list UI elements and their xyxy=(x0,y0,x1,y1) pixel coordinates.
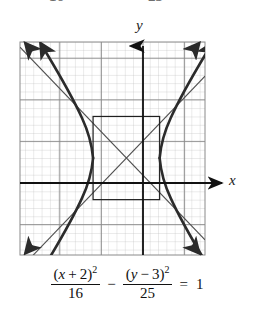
term1-numerator: (x + 2)2 xyxy=(51,267,101,284)
y-axis-label: y xyxy=(136,17,143,34)
equation-minus-operator: − xyxy=(105,276,117,293)
hyperbola-figure: 16 25 xyxy=(0,0,255,324)
term2-numerator: (y − 3)2 xyxy=(123,267,173,284)
term1-operator: + xyxy=(68,266,76,282)
term1-variable: x xyxy=(59,266,66,282)
term2-operator: − xyxy=(140,266,148,282)
equation-caption: (x + 2)2 16 − (y − 3)2 25 = 1 xyxy=(0,266,255,302)
x-axis-label: x xyxy=(229,172,236,189)
term1-fraction: (x + 2)2 16 xyxy=(51,267,101,302)
equation-row: (x + 2)2 16 − (y − 3)2 25 = 1 xyxy=(50,267,206,302)
term2-fraction: (y − 3)2 25 xyxy=(123,267,173,302)
term2-variable: y xyxy=(131,266,138,282)
minor-gridlines xyxy=(20,42,205,255)
equation-equals-sign: = xyxy=(177,276,189,293)
equation-right-side: 1 xyxy=(194,276,206,293)
term2-denominator: 25 xyxy=(137,285,158,302)
term2-exponent: 2 xyxy=(164,264,169,275)
term1-denominator: 16 xyxy=(65,285,86,302)
term1-exponent: 2 xyxy=(92,264,97,275)
